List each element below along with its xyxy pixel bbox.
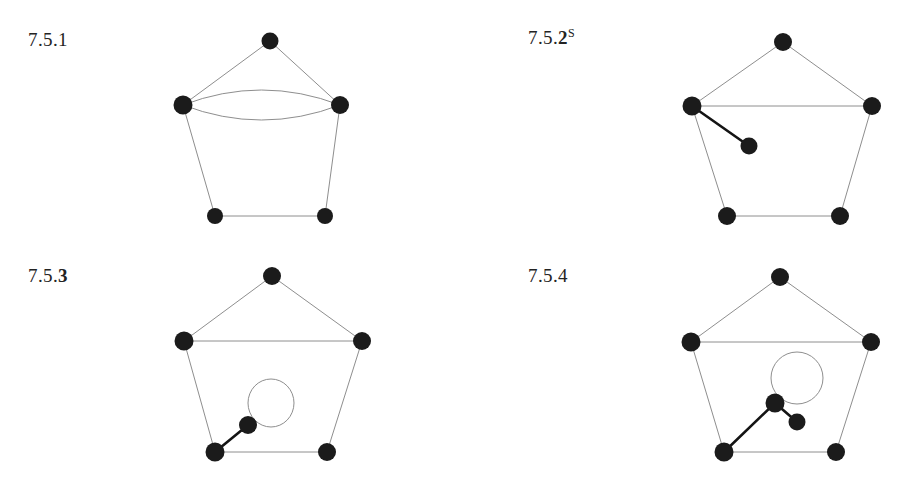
graph-vertex (683, 97, 702, 116)
graph-vertex (174, 96, 193, 115)
graph-vertex (353, 332, 371, 350)
graph-edge (183, 105, 340, 120)
graph-vertex (263, 267, 281, 285)
graph-7-5-4 (452, 244, 904, 487)
graph-vertex (863, 97, 881, 115)
graph-vertex (827, 443, 845, 461)
graph-vertex (207, 208, 223, 224)
graph-vertex (774, 33, 792, 51)
graph-edge (691, 342, 724, 452)
graph-vertex (239, 416, 257, 434)
graph-edge (692, 42, 783, 106)
graph-edge (184, 341, 215, 452)
graph-edge (183, 90, 340, 105)
graph-edge (724, 403, 775, 452)
graph-7-5-3 (0, 244, 452, 487)
figure-panel-7-5-3: 7.5.3 (0, 244, 452, 487)
figure-grid: 7.5.1 7.5.2S 7.5.3 7.5.4 (0, 0, 904, 487)
graph-vertex (682, 333, 701, 352)
graph-vertex (715, 443, 734, 462)
graph-vertex (766, 394, 785, 413)
graph-vertex (831, 207, 849, 225)
graph-edge (692, 106, 727, 216)
graph-edge (325, 105, 340, 216)
graph-edge (184, 276, 272, 341)
graph-edge (691, 277, 780, 342)
graph-edge (272, 276, 362, 341)
graph-7-5-1 (0, 0, 452, 243)
graph-edge (840, 106, 872, 216)
graph-vertex (262, 33, 279, 50)
graph-edge (780, 277, 871, 342)
graph-vertex (718, 207, 736, 225)
figure-panel-7-5-4: 7.5.4 (452, 244, 904, 487)
graph-vertex (771, 268, 789, 286)
figure-panel-7-5-2: 7.5.2S (452, 0, 904, 243)
graph-edge (327, 341, 362, 452)
graph-edge (183, 41, 270, 105)
graph-vertex (317, 208, 333, 224)
graph-vertex (175, 332, 194, 351)
graph-edge (836, 342, 871, 452)
graph-edge (183, 105, 215, 216)
graph-vertex (741, 138, 758, 155)
graph-vertex (789, 414, 806, 431)
graph-vertex (206, 443, 225, 462)
graph-vertex (331, 96, 349, 114)
graph-edge (783, 42, 872, 106)
graph-edge (692, 106, 749, 146)
graph-vertex (318, 443, 336, 461)
figure-panel-7-5-1: 7.5.1 (0, 0, 452, 243)
graph-vertex (862, 333, 880, 351)
graph-edge (270, 41, 340, 105)
graph-7-5-2 (452, 0, 904, 243)
